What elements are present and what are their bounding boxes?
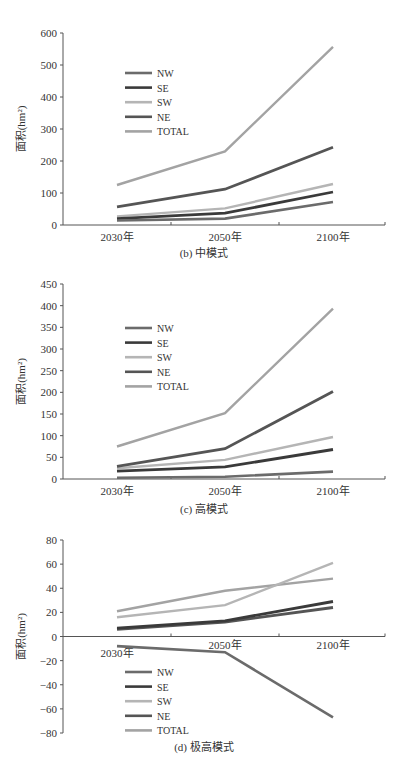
x-tick-label: 2100年: [317, 484, 350, 497]
chart-plot-area: 0100200300400500600面积(hm²)2030年2050年2100…: [0, 0, 408, 250]
y-tick-label: 0: [52, 219, 58, 231]
legend-item-sw: SW: [125, 696, 173, 707]
x-axis: 2030年2050年2100年: [63, 222, 385, 243]
y-tick-label: 200: [41, 386, 58, 398]
legend-label: TOTAL: [157, 126, 189, 137]
y-tick-label: 300: [41, 123, 58, 135]
y-tick-label: 500: [41, 59, 58, 71]
y-tick-label: 600: [41, 27, 58, 39]
y-axis-label: 面积(hm²): [15, 613, 28, 660]
y-tick-label: 100: [41, 430, 58, 442]
x-tick-label: 2050年: [209, 230, 242, 243]
legend-label: SW: [157, 97, 173, 108]
y-tick-label: −40: [40, 679, 58, 691]
y-tick-label: 0: [52, 473, 58, 485]
legend-item-se: SE: [125, 338, 169, 349]
y-axis-label: 面积(hm²): [15, 105, 28, 152]
legend-item-nw: NW: [125, 667, 174, 678]
series-line-sw: [117, 437, 333, 468]
series-line-nw: [117, 646, 333, 717]
y-tick-label: 0: [52, 631, 58, 643]
legend-item-nw: NW: [125, 323, 174, 334]
legend: NWSESWNETOTAL: [125, 68, 189, 137]
legend-label: NW: [157, 323, 174, 334]
legend-label: NE: [157, 367, 170, 378]
legend-label: NE: [157, 112, 170, 123]
legend-item-sw: SW: [125, 97, 173, 108]
y-axis: 050100150200250300350400450面积(hm²): [15, 278, 63, 485]
chart-plot-area: 050100150200250300350400450面积(hm²)2030年2…: [0, 250, 408, 515]
legend-label: SE: [157, 83, 169, 94]
y-tick-label: −60: [40, 703, 58, 715]
y-axis-label: 面积(hm²): [15, 358, 28, 405]
x-axis: 2030年2050年2100年: [63, 634, 385, 659]
y-tick-label: 150: [41, 408, 58, 420]
y-tick-label: −20: [40, 655, 58, 667]
y-tick-label: 20: [46, 606, 58, 618]
x-tick-label: 2100年: [317, 638, 350, 651]
legend-item-se: SE: [125, 83, 169, 94]
legend: NWSESWNETOTAL: [125, 323, 189, 392]
series-line-nw: [117, 472, 333, 478]
legend-label: SW: [157, 696, 173, 707]
x-axis: 2030年2050年2100年: [63, 476, 385, 497]
series-line-total: [117, 309, 333, 447]
legend-item-total: TOTAL: [125, 126, 189, 137]
legend-item-se: SE: [125, 682, 169, 693]
y-tick-label: 40: [46, 582, 58, 594]
chart-extreme-scenario: −80−60−40−20020406080面积(hm²)2030年2050年21…: [0, 515, 408, 762]
chart-high-scenario: 050100150200250300350400450面积(hm²)2030年2…: [0, 250, 408, 515]
legend-label: SE: [157, 682, 169, 693]
chart-plot-area: −80−60−40−20020406080面积(hm²)2030年2050年21…: [0, 515, 408, 762]
y-tick-label: 300: [41, 343, 58, 355]
x-tick-label: 2050年: [209, 638, 242, 651]
chart-caption-high: (c) 高模式: [0, 500, 408, 516]
y-tick-label: 250: [41, 365, 58, 377]
y-tick-label: 400: [41, 300, 58, 312]
legend-label: TOTAL: [157, 725, 189, 736]
legend-item-sw: SW: [125, 352, 173, 363]
x-tick-label: 2050年: [209, 484, 242, 497]
y-axis: −80−60−40−20020406080面积(hm²): [15, 534, 63, 739]
legend-label: NW: [157, 667, 174, 678]
y-axis: 0100200300400500600面积(hm²): [15, 27, 63, 231]
legend-label: SW: [157, 352, 173, 363]
legend: NWSESWNETOTAL: [125, 667, 189, 736]
x-tick-label: 2030年: [101, 230, 134, 243]
chart-medium-scenario: 0100200300400500600面积(hm²)2030年2050年2100…: [0, 0, 408, 250]
legend-label: TOTAL: [157, 381, 189, 392]
legend-item-nw: NW: [125, 68, 174, 79]
y-tick-label: 400: [41, 91, 58, 103]
legend-item-total: TOTAL: [125, 381, 189, 392]
y-tick-label: 60: [46, 558, 58, 570]
y-tick-label: 350: [41, 321, 58, 333]
legend-label: NW: [157, 68, 174, 79]
legend-label: NE: [157, 711, 170, 722]
y-tick-label: 50: [46, 451, 58, 463]
legend-item-ne: NE: [125, 367, 170, 378]
x-tick-label: 2030年: [101, 484, 134, 497]
legend-item-total: TOTAL: [125, 725, 189, 736]
y-tick-label: 200: [41, 155, 58, 167]
legend-item-ne: NE: [125, 711, 170, 722]
legend-item-ne: NE: [125, 112, 170, 123]
y-tick-label: 100: [41, 187, 58, 199]
chart-caption-extreme: (d) 极高模式: [0, 738, 408, 754]
x-tick-label: 2100年: [317, 230, 350, 243]
legend-label: SE: [157, 338, 169, 349]
y-tick-label: 80: [46, 534, 58, 546]
y-tick-label: 450: [41, 278, 58, 290]
series-lines: [117, 309, 333, 478]
